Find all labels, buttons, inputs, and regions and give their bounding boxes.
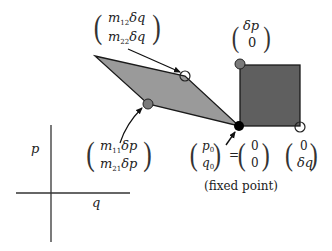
svg-text:(: ( (94, 7, 102, 45)
svg-text:(: ( (190, 137, 198, 172)
parallelogram-left-gray-marker (143, 99, 153, 109)
svg-text:): ) (152, 7, 160, 45)
svg-text:0: 0 (251, 139, 259, 153)
fixed-point-label: ( ) p0 q0 = ( ) 0 0 (fixed point) (190, 137, 278, 193)
svg-text:δp: δp (243, 18, 260, 33)
fixed-point-caption: (fixed point) (204, 179, 278, 193)
svg-text:0: 0 (300, 139, 308, 153)
square-top-gray-marker (235, 59, 245, 69)
svg-text:): ) (262, 137, 270, 172)
svg-text:(: ( (86, 134, 94, 172)
svg-text:(: ( (285, 137, 293, 172)
svg-text:(: ( (232, 20, 239, 54)
fixed-point-marker (234, 121, 244, 131)
svg-text:m12δq: m12δq (108, 10, 145, 27)
q-axis-label: q (92, 195, 100, 210)
svg-text:m22δq: m22δq (108, 29, 145, 46)
svg-text:): ) (263, 20, 270, 54)
parallelogram-left-vector-label: ( ) m11δp m21δp (86, 134, 151, 173)
square-top-vector-label: ( ) δp 0 (232, 18, 271, 54)
square-right-vector-label: ( ) 0 δq (285, 137, 318, 172)
svg-text:): ) (143, 134, 151, 172)
svg-text:0: 0 (248, 35, 256, 50)
svg-text:m21δp: m21δp (100, 156, 138, 173)
svg-text:m11δp: m11δp (100, 138, 138, 155)
svg-text:δq: δq (297, 155, 313, 170)
p-axis-label: p (31, 141, 40, 156)
svg-text:): ) (213, 137, 221, 172)
svg-text:0: 0 (251, 156, 259, 170)
parallelogram-top-vector-label: ( ) m12δq m22δq (94, 7, 161, 46)
arrow-to-fixed-point (226, 132, 235, 145)
initial-square (240, 65, 300, 126)
axes: p q (16, 125, 130, 242)
phase-space-diagram: p q ( ) m12δq m22δq ( ) δp 0 ( ) (0, 0, 332, 251)
svg-text:(: ( (238, 137, 246, 172)
